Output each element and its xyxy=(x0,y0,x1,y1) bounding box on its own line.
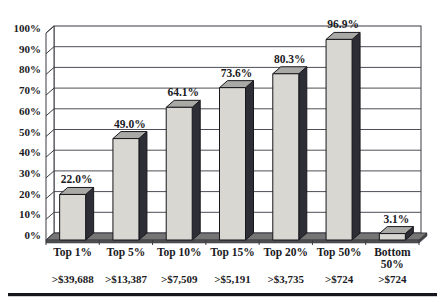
income-threshold-label: >$39,688 xyxy=(52,273,95,285)
bar-top-20--front xyxy=(273,74,299,240)
x-axis-label: Top 15% xyxy=(210,246,255,259)
bar-chart-svg: 100%90%80%70%60%50%40%30%20%10%0%22.0%49… xyxy=(0,0,446,302)
bar-top-50--side xyxy=(352,32,360,240)
bar-value-label: 3.1% xyxy=(383,213,409,225)
bar-bottom-50--front xyxy=(379,234,405,240)
bar-top-5--side xyxy=(139,132,147,240)
bar-top-15--front xyxy=(220,88,246,240)
x-axis-label: Bottom xyxy=(374,246,411,258)
income-threshold-label: >$13,387 xyxy=(105,273,148,285)
y-axis-label: 100% xyxy=(14,22,42,34)
bottom-rule xyxy=(8,293,437,296)
income-threshold-label: >$5,191 xyxy=(214,273,251,285)
y-axis-label: 30% xyxy=(19,167,41,179)
bar-value-label: 96.9% xyxy=(327,18,359,30)
y-axis-label: 50% xyxy=(19,126,41,138)
bar-top-10--side xyxy=(192,100,200,240)
bar-value-label: 64.1% xyxy=(167,86,199,98)
chart-image: 100%90%80%70%60%50%40%30%20%10%0%22.0%49… xyxy=(0,0,446,302)
x-axis-label: Top 50% xyxy=(317,246,362,259)
y-axis-label: 20% xyxy=(19,188,41,200)
bar-value-label: 22.0% xyxy=(61,173,93,185)
bar-top-10--front xyxy=(166,107,192,240)
x-axis-label: Top 5% xyxy=(106,246,145,259)
bar-top-5--front xyxy=(113,139,139,240)
income-threshold-label: >$3,735 xyxy=(268,273,305,285)
y-axis-label: 0% xyxy=(25,229,42,241)
y-axis-label: 60% xyxy=(19,105,41,117)
x-axis-label: Top 20% xyxy=(263,246,308,259)
y-axis-label: 10% xyxy=(19,208,41,220)
bar-top-15--side xyxy=(246,81,254,240)
bar-top-20--side xyxy=(299,67,307,240)
x-axis-label: Top 1% xyxy=(53,246,92,259)
bar-value-label: 80.3% xyxy=(274,53,306,65)
bar-top-50--front xyxy=(326,39,352,240)
bar-top-1--side xyxy=(86,187,94,240)
y-axis-label: 70% xyxy=(19,84,41,96)
bar-value-label: 49.0% xyxy=(114,118,146,130)
income-threshold-label: >$7,509 xyxy=(161,273,198,285)
y-axis-label: 80% xyxy=(19,63,41,75)
x-axis-label: Top 10% xyxy=(157,246,202,259)
x-axis-label: 50% xyxy=(381,258,404,270)
income-threshold-label: >$724 xyxy=(378,273,407,285)
y-axis-label: 40% xyxy=(19,146,41,158)
bar-value-label: 73.6% xyxy=(221,67,253,79)
bar-top-1--front xyxy=(60,194,86,240)
y-axis-label: 90% xyxy=(19,43,41,55)
income-threshold-label: >$724 xyxy=(325,273,354,285)
